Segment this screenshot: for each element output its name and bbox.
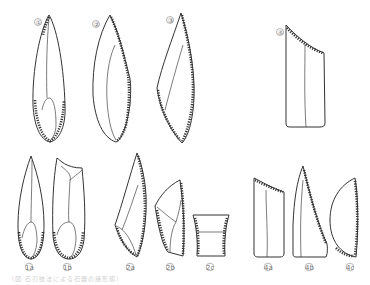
tool-1: ① xyxy=(33,15,65,142)
tool-2b-label: 2b xyxy=(166,264,175,272)
tool-2a-label: 2a xyxy=(126,264,135,272)
tool-4b-label: 4b xyxy=(305,264,314,272)
tool-1a: 1a xyxy=(18,156,44,272)
tool-4: ④ xyxy=(277,25,326,127)
tool-4a-label: 4a xyxy=(264,264,273,272)
tool-1b-label: 1b xyxy=(63,264,72,272)
tool-2c-label: 2c xyxy=(206,264,214,272)
tool-1b: 1b xyxy=(53,158,85,272)
tool-2-label: ② xyxy=(94,21,100,29)
tool-4a: 4a xyxy=(254,178,284,272)
tool-2c: 2c xyxy=(193,215,229,272)
lithic-figure: ① ② ③ ④ 1a xyxy=(0,0,370,285)
tool-3: ③ xyxy=(157,13,194,143)
tool-2b: 2b xyxy=(155,180,184,272)
tool-3-label: ③ xyxy=(168,17,174,25)
tool-4c: 4c xyxy=(330,178,358,272)
tool-2: ② xyxy=(93,15,131,142)
tool-4c-label: 4c xyxy=(346,264,354,272)
figure-caption: （図 石刃技法による石器の諸形態） xyxy=(8,274,123,283)
tool-2a: 2a xyxy=(115,153,146,272)
tool-1-label: ① xyxy=(36,19,42,27)
tool-4-label: ④ xyxy=(278,29,284,37)
tool-1a-label: 1a xyxy=(25,264,34,272)
tool-4b: 4b xyxy=(293,166,327,272)
